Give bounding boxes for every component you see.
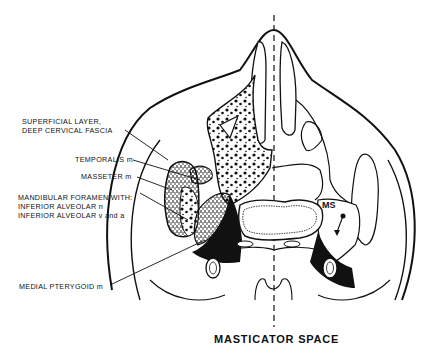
nasal-cavity-right [280,42,296,135]
label-mandibular-foramen: MANDIBULAR FORAMEN WITH: INFERIOR ALVEOL… [18,193,133,220]
label-medial-pterygoid: MEDIAL PTERYGOID m [19,282,103,291]
label-line: MANDIBULAR FORAMEN WITH: [18,193,133,202]
label-superficial-layer: SUPERFICIAL LAYER, DEEP CERVICAL FASCIA [22,117,113,135]
label-masseter: MASSETER m [81,172,132,181]
label-line: SUPERFICIAL LAYER, [22,117,113,126]
label-line: INFERIOR ALVEOLAR v and a [18,211,133,220]
label-ms: MS [322,200,336,210]
label-line: INFERIOR ALVEOLAR n [18,202,133,211]
label-line: DEEP CERVICAL FASCIA [22,126,113,135]
diagram-title: MASTICATOR SPACE [214,333,339,345]
label-temporalis: TEMPORALIS m [75,155,133,164]
leader-medial-pterygoid [110,240,205,285]
temporalis-muscle [190,166,212,184]
masticator-space-diagram [0,0,434,356]
